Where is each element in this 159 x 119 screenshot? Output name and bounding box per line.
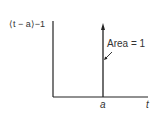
x-tick-label-a: a xyxy=(100,100,106,110)
impulse-area-annotation: Area = 1 xyxy=(107,39,145,49)
impulse-arrowhead-icon xyxy=(101,23,105,30)
impulse-diagram xyxy=(0,0,159,119)
y-axis-label: ⟨t − a⟩−1 xyxy=(9,19,45,29)
x-axis-label: t xyxy=(146,100,149,110)
